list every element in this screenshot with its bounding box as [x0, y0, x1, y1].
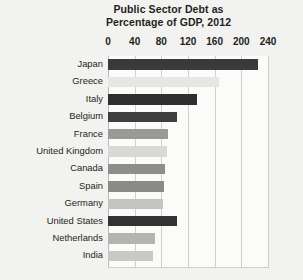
category-label-italy: Italy — [0, 93, 103, 105]
x-axis-tick-labels: 04080120160200240 — [0, 36, 303, 52]
x-tick-label-160: 160 — [206, 36, 223, 47]
bar-row: India — [0, 247, 303, 264]
bar-row: Netherlands — [0, 230, 303, 247]
bar-row: Japan — [0, 56, 303, 73]
x-tick-label-80: 80 — [156, 36, 167, 47]
bar-belgium — [108, 112, 177, 122]
category-label-spain: Spain — [0, 180, 103, 192]
bar-rows: JapanGreeceItalyBelgiumFranceUnited King… — [0, 56, 303, 268]
bar-row: Germany — [0, 195, 303, 212]
bar-row: Belgium — [0, 108, 303, 125]
category-label-france: France — [0, 128, 103, 140]
category-label-india: India — [0, 249, 103, 261]
chart-title-line-2: Percentage of GDP, 2012 — [66, 16, 271, 29]
bar-canada — [108, 164, 165, 174]
bar-india — [108, 251, 153, 261]
bar-row: Spain — [0, 178, 303, 195]
category-label-greece: Greece — [0, 75, 103, 87]
category-label-united-kingdom: United Kingdom — [0, 145, 103, 157]
x-tick-label-120: 120 — [180, 36, 197, 47]
bar-united-kingdom — [108, 146, 167, 156]
x-tick-label-40: 40 — [129, 36, 140, 47]
category-label-japan: Japan — [0, 58, 103, 70]
bar-row: Canada — [0, 160, 303, 177]
bar-spain — [108, 181, 164, 191]
bar-greece — [108, 77, 219, 87]
category-label-germany: Germany — [0, 197, 103, 209]
bar-netherlands — [108, 233, 155, 243]
category-label-netherlands: Netherlands — [0, 232, 103, 244]
bar-france — [108, 129, 168, 139]
chart-title: Public Sector Debt as Percentage of GDP,… — [66, 3, 271, 29]
category-label-canada: Canada — [0, 162, 103, 174]
x-tick-label-200: 200 — [233, 36, 250, 47]
chart-container: Public Sector Debt as Percentage of GDP,… — [0, 0, 303, 280]
bar-united-states — [108, 216, 177, 226]
bar-row: Italy — [0, 91, 303, 108]
bar-germany — [108, 199, 163, 209]
bar-italy — [108, 94, 197, 104]
x-tick-label-0: 0 — [105, 36, 111, 47]
bar-japan — [108, 59, 258, 69]
x-tick-label-240: 240 — [260, 36, 277, 47]
chart-title-line-1: Public Sector Debt as — [66, 3, 271, 16]
bar-row: France — [0, 126, 303, 143]
category-label-united-states: United States — [0, 215, 103, 227]
bar-row: United Kingdom — [0, 143, 303, 160]
bar-row: Greece — [0, 73, 303, 90]
category-label-belgium: Belgium — [0, 110, 103, 122]
bar-row: United States — [0, 213, 303, 230]
